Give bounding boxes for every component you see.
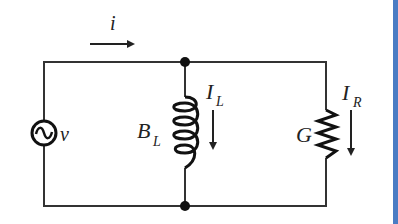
top-node (180, 57, 190, 67)
resistor-icon (318, 110, 336, 158)
resistor-label: G (296, 122, 312, 147)
wires (44, 62, 326, 206)
bottom-node (180, 201, 190, 211)
inductor-current-sub: L (215, 94, 224, 109)
inductor-label: B (137, 118, 150, 143)
inductor-current-label: I (205, 79, 215, 104)
resistor-current-label: I (341, 80, 351, 105)
circuit-diagram: v i B L I L G I R (0, 0, 398, 224)
source-label: v (60, 123, 69, 145)
total-current-label: i (110, 12, 116, 34)
resistor-current-sub: R (352, 95, 362, 110)
inductor-label-sub: L (152, 134, 161, 149)
inductor-icon (174, 97, 198, 168)
ac-source-icon (32, 121, 56, 145)
